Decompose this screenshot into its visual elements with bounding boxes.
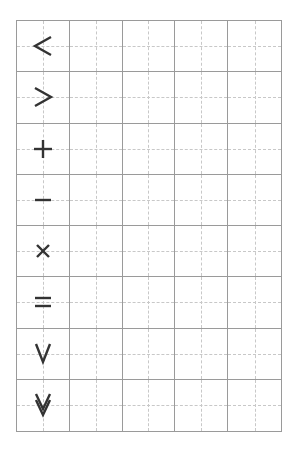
multiply-icon [29,237,57,265]
practice-cell [123,175,176,226]
less-than-icon [29,32,57,60]
v-chevron-icon [29,340,57,368]
guide-line-horizontal [175,200,227,201]
practice-cell [123,277,176,328]
guide-line-horizontal [70,354,122,355]
guide-line-horizontal [228,251,281,252]
guide-line-horizontal [228,200,281,201]
guide-line-horizontal [228,302,281,303]
guide-line-horizontal [228,46,281,47]
practice-cell [123,124,176,175]
practice-cell [70,21,123,72]
practice-cell [228,329,281,380]
practice-cell [228,72,281,123]
guide-line-horizontal [175,251,227,252]
guide-line-horizontal [228,354,281,355]
guide-line-horizontal [123,97,175,98]
guide-line-horizontal [123,302,175,303]
practice-cell [175,277,228,328]
symbol-cell [17,21,70,72]
minus-icon [29,186,57,214]
guide-line-horizontal [70,251,122,252]
guide-line-horizontal [175,405,227,406]
plus-icon [29,135,57,163]
guide-line-horizontal [123,200,175,201]
guide-line-horizontal [175,149,227,150]
practice-cell [123,329,176,380]
practice-cell [175,21,228,72]
practice-cell [175,72,228,123]
guide-line-horizontal [228,149,281,150]
practice-cell [70,124,123,175]
double-v-chevron-icon [29,391,57,419]
symbol-cell [17,226,70,277]
practice-cell [123,72,176,123]
practice-cell [123,380,176,431]
practice-cell [123,226,176,277]
equals-icon [29,288,57,316]
practice-cell [175,329,228,380]
guide-line-horizontal [123,354,175,355]
practice-cell [175,380,228,431]
practice-cell [228,277,281,328]
practice-cell [70,226,123,277]
guide-line-horizontal [123,46,175,47]
practice-cell [175,226,228,277]
symbol-cell [17,72,70,123]
guide-line-horizontal [228,97,281,98]
practice-cell [228,175,281,226]
symbol-cell [17,124,70,175]
guide-line-horizontal [123,149,175,150]
practice-cell [70,277,123,328]
practice-cell [175,175,228,226]
practice-cell [175,124,228,175]
practice-cell [228,226,281,277]
guide-line-horizontal [175,46,227,47]
writing-practice-grid [16,20,282,432]
symbol-cell [17,380,70,431]
practice-cell [228,21,281,72]
practice-cell [70,329,123,380]
symbol-cell [17,175,70,226]
practice-cell [123,21,176,72]
practice-cell [70,175,123,226]
guide-line-horizontal [70,405,122,406]
guide-line-horizontal [70,200,122,201]
symbol-cell [17,329,70,380]
guide-line-horizontal [175,302,227,303]
guide-line-horizontal [175,97,227,98]
practice-cell [70,380,123,431]
guide-line-horizontal [123,251,175,252]
guide-line-horizontal [175,354,227,355]
guide-line-horizontal [70,46,122,47]
guide-line-horizontal [70,149,122,150]
guide-line-horizontal [228,405,281,406]
greater-than-icon [29,83,57,111]
guide-line-horizontal [70,302,122,303]
guide-line-horizontal [70,97,122,98]
guide-line-horizontal [123,405,175,406]
practice-cell [228,124,281,175]
symbol-cell [17,277,70,328]
practice-cell [70,72,123,123]
practice-cell [228,380,281,431]
